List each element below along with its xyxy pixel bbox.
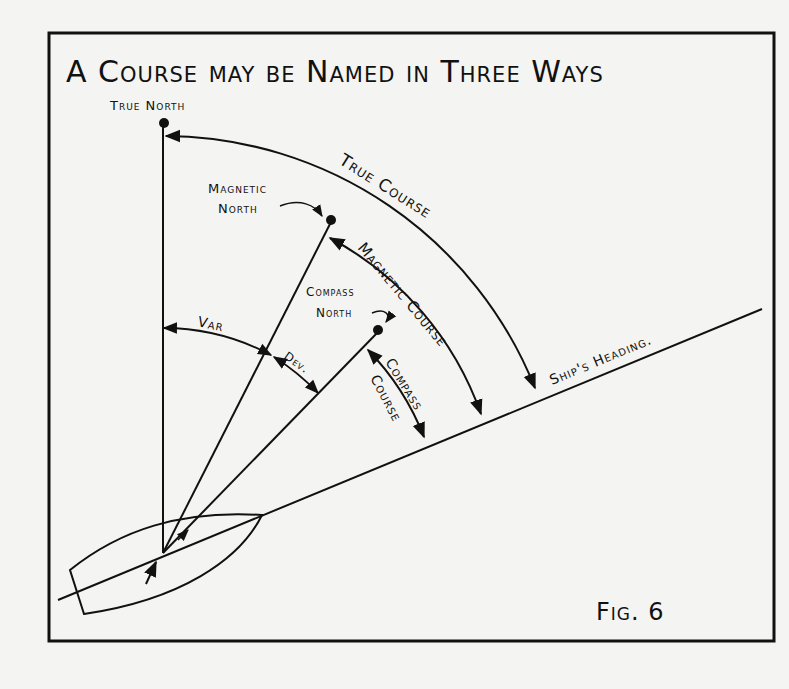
magnetic-north-pointer [280,203,322,216]
figure-title: A Course may be Named in Three Ways [66,54,604,89]
true-north-label: True North [109,98,185,113]
compass-north-dot [373,325,383,335]
magnetic-north-dot [326,215,336,225]
magnetic-course-label: Magnetic Course [354,239,451,350]
true-course-label: True Course [335,149,436,222]
figure-number: Fig. 6 [596,598,665,626]
figure-frame [49,33,774,641]
true-north-dot [159,118,169,128]
boat-arrow [146,562,156,584]
compass-north-label-line2: North [316,306,352,320]
compass-north-label-line1: Compass [306,285,355,299]
boat-hull [70,514,262,614]
magnetic-north-label-line1: Magnetic [208,181,267,196]
course-diagram: A Course may be Named in Three Ways True… [0,0,789,689]
compass-north-line [163,332,378,553]
magnetic-north-label-line2: North [218,201,258,216]
magnetic-north-line [163,222,331,553]
compass-north-pointer [372,311,388,322]
